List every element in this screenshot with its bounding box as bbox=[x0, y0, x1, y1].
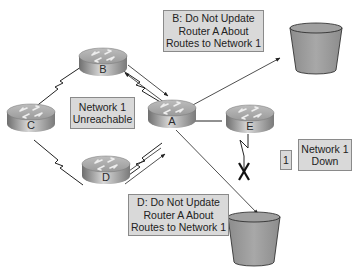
bucket-icon bbox=[290, 23, 342, 74]
bucket-icon bbox=[228, 212, 280, 266]
update-arrows bbox=[122, 58, 280, 214]
serial-link-c-d bbox=[34, 140, 83, 185]
label-line: 1 bbox=[283, 154, 289, 167]
router-b-message-label: B: Do Not Update Router A About Routes t… bbox=[163, 10, 264, 52]
router-label: A bbox=[168, 115, 176, 127]
label-line: Down bbox=[312, 155, 339, 168]
router-d[interactable]: D bbox=[82, 156, 130, 184]
router-b[interactable]: B bbox=[79, 48, 127, 76]
label-line: Router A About bbox=[143, 209, 213, 222]
router-a[interactable]: A bbox=[148, 100, 196, 128]
label-line: Network 1 bbox=[301, 143, 348, 156]
router-e[interactable]: E bbox=[226, 105, 274, 133]
label-line: D: Do Not Update bbox=[137, 196, 220, 209]
network-down-label: Network 1 Down bbox=[298, 139, 352, 171]
network-unreachable-label: Network 1 Unreachable bbox=[70, 97, 135, 129]
label-line: Unreachable bbox=[73, 113, 133, 126]
label-line: B: Do Not Update bbox=[172, 12, 254, 25]
label-line: Router A About bbox=[178, 25, 248, 38]
router-label: D bbox=[102, 171, 110, 183]
network-number-label: 1 bbox=[280, 150, 292, 170]
router-label: C bbox=[27, 119, 35, 131]
router-c[interactable]: C bbox=[7, 104, 55, 132]
router-d-message-label: D: Do Not Update Router A About Routes t… bbox=[128, 194, 229, 236]
label-line: Network 1 bbox=[79, 101, 126, 114]
links bbox=[34, 65, 248, 185]
router-label: B bbox=[99, 63, 106, 75]
label-line: Routes to Network 1 bbox=[131, 221, 226, 234]
label-line: Routes to Network 1 bbox=[166, 37, 261, 50]
router-label: E bbox=[246, 120, 253, 132]
